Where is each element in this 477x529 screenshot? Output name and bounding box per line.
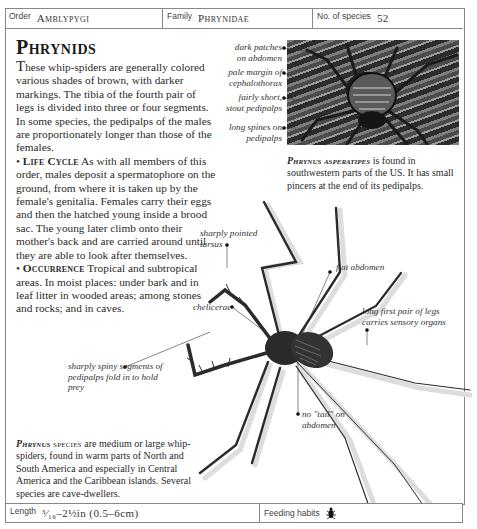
annotation-long-spines: long spines on pedipalps <box>225 122 282 143</box>
length-value: ³⁄₁₆–2½in (0.5–6cm) <box>42 507 138 519</box>
length-label: Length <box>10 506 36 516</box>
family-label: Family <box>167 11 192 21</box>
photo-caption: Phrynus asperatipes is found in southwes… <box>287 155 462 192</box>
insect-icon <box>326 507 336 519</box>
species-count-label: No. of species <box>317 11 371 21</box>
annotation-flat-abdomen: flat abdomen <box>330 262 386 273</box>
bullet: • <box>16 262 20 274</box>
classification-header: Order Amblypygi Family Phrynidae No. of … <box>5 8 463 29</box>
feeding-cell: Feeding habits <box>260 504 462 522</box>
photo-caption-species: Phrynus asperatipes <box>287 155 370 166</box>
family-cell: Family Phrynidae <box>163 8 313 28</box>
order-value: Amblypygi <box>37 12 90 24</box>
life-cycle-heading: Life Cycle <box>23 155 79 167</box>
species-count-value: 52 <box>377 12 389 24</box>
facts-footer: Length ³⁄₁₆–2½in (0.5–6cm) Feeding habit… <box>5 503 463 523</box>
annotation-no-tail: no "tail" on abdomen <box>296 409 367 430</box>
life-cycle-text: As with all members of this order, males… <box>16 155 215 261</box>
annotation-pale-margin: pale margin of cephalothorax <box>220 67 282 88</box>
occurrence-heading: Occurrence <box>23 262 85 274</box>
bullet: • <box>16 155 20 167</box>
species-count-cell: No. of species 52 <box>313 8 463 28</box>
dropcap: T <box>16 58 25 74</box>
family-value: Phrynidae <box>198 12 249 24</box>
feeding-label: Feeding habits <box>264 508 320 518</box>
intro-paragraph: These whip-spiders are generally colored… <box>16 60 216 155</box>
illustration-caption-genus: Phrynus <box>16 438 50 449</box>
annotation-chelicerae: chelicerae <box>193 302 233 313</box>
illustration-caption-label: species <box>50 438 81 449</box>
order-label: Order <box>9 11 31 21</box>
photo-spider-icon <box>287 40 459 145</box>
annotation-dark-patches: dark patches on abdomen <box>225 42 282 63</box>
annotation-tarsus: sharply pointed tarsus <box>200 228 280 249</box>
annotation-pedipalps: sharply spiny segments of pedipalps fold… <box>68 361 168 393</box>
order-cell: Order Amblypygi <box>5 8 163 28</box>
main-description: These whip-spiders are generally colored… <box>16 60 216 316</box>
illustration-caption: Phrynus species are medium or large whip… <box>16 438 196 500</box>
annotation-stout-pedipalps: fairly short, stout pedipalps <box>222 92 282 113</box>
specimen-photo <box>287 40 459 145</box>
occurrence-section: • Occurrence Tropical and subtropical ar… <box>16 262 216 316</box>
page-title: Phrynids <box>16 36 96 59</box>
annotation-first-legs: long first pair of legs carries sensory … <box>362 306 452 327</box>
length-cell: Length ³⁄₁₆–2½in (0.5–6cm) <box>6 504 260 522</box>
life-cycle-section: • Life Cycle As with all members of this… <box>16 155 216 262</box>
intro-text: hese whip-spiders are generally colored … <box>16 61 212 153</box>
